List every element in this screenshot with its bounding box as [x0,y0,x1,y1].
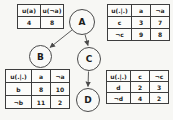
utility-table-d-given-c: u(.|.) c ¬c d 2 3 ¬d 4 2 [106,70,169,104]
table-value-cell: 10 [51,83,70,96]
table-value-cell: 9 [132,29,151,41]
utility-table-b-given-a: u(.|.) a ¬a b 8 10 ¬b 11 2 [5,69,70,109]
node-a-label: A [79,17,86,27]
table-value-cell: 4 [18,17,41,29]
node-a: A [69,9,95,35]
influence-diagram: A B C D u(a) u(¬a) 4 8 u(.|.) a ¬a c 3 7… [0,0,173,120]
table-header-cell: ¬c [150,71,169,82]
table-header-cell: u(¬a) [41,5,64,17]
node-c-label: C [86,54,93,64]
table-row-label: d [107,82,131,93]
table-row-label: b [6,83,32,96]
table-value-cell: 11 [32,96,51,109]
table-value-cell: 8 [41,17,64,29]
table-header-cell: ¬a [151,5,170,17]
table-value-cell: 4 [131,93,150,104]
table-header-cell: u(.|.) [107,71,131,82]
table-row-label: ¬d [107,93,131,104]
node-b: B [29,45,52,68]
node-d-label: D [84,95,91,105]
table-row-label: c [108,17,132,29]
table-row-label: ¬b [6,96,32,109]
table-header-cell: c [131,71,150,82]
node-b-label: B [37,52,44,62]
edge-a-to-b [50,30,72,48]
table-value-cell: 2 [51,96,70,109]
node-c: C [77,47,101,71]
table-value-cell: 3 [132,17,151,29]
table-header-cell: u(.|.) [108,5,132,17]
utility-table-c-given-a: u(.|.) a ¬a c 3 7 ¬c 9 8 [107,4,170,41]
table-value-cell: 7 [151,17,170,29]
table-value-cell: 2 [131,82,150,93]
node-d: D [76,88,100,112]
table-header-cell: u(.|.) [6,70,32,83]
table-value-cell: 8 [151,29,170,41]
edge-a-to-c [85,35,88,46]
table-header-cell: ¬a [51,70,70,83]
table-row-label: ¬c [108,29,132,41]
table-value-cell: 8 [32,83,51,96]
table-value-cell: 3 [150,82,169,93]
utility-table-a: u(a) u(¬a) 4 8 [17,4,64,29]
table-header-cell: u(a) [18,5,41,17]
table-header-cell: a [132,5,151,17]
table-header-cell: a [32,70,51,83]
table-value-cell: 2 [150,93,169,104]
edge-c-to-d [88,72,89,87]
